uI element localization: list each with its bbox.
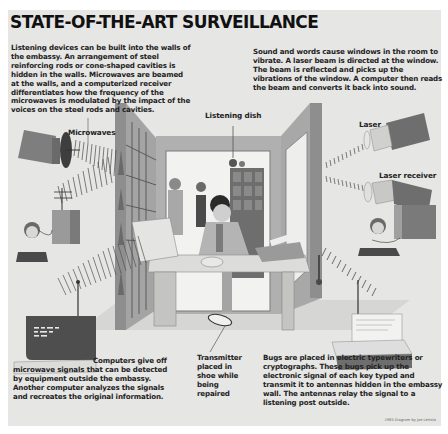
listener-left (16, 222, 52, 262)
shoe-transmitter-description: Transmitter placed in shoe while being r… (197, 354, 241, 399)
microwave-emitter (18, 118, 88, 168)
laser-beam (326, 144, 363, 191)
computers-description: Computers give off microwave signals tha… (13, 357, 173, 402)
left-wall (115, 103, 156, 330)
listener-right (358, 218, 400, 256)
label-listening-dish: Listening dish (205, 111, 261, 120)
laser-device (364, 113, 430, 151)
laser-description: Sound and words cause windows in the roo… (253, 48, 443, 93)
credit-line: 1985 Diagram by Joe Lertola (385, 418, 436, 422)
bugs-description: Bugs are placed in electric typewriters … (263, 354, 443, 407)
label-microwaves: Microwaves (68, 128, 115, 137)
page-title: STATE-OF-THE-ART SURVEILLANCE (10, 12, 318, 32)
walls-description: Listening devices can be built into the … (11, 44, 191, 115)
label-laser: Laser (359, 120, 381, 129)
label-laser-receiver: Laser receiver (379, 171, 436, 180)
